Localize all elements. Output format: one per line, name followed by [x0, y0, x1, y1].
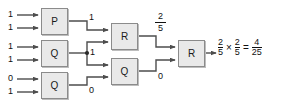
result-numerator: 4 [252, 38, 262, 47]
label-q1-out: 1 [90, 48, 95, 57]
gate-q-2[interactable]: Q [41, 72, 68, 99]
logic-diagram-canvas: P Q Q R Q R 1 1 1 1 0 1 1 1 0 0 2 5 2 5 … [0, 0, 291, 106]
gate-r-2[interactable]: R [178, 40, 205, 67]
label-p1-out: 1 [89, 13, 94, 22]
result-right-denominator: 5 [235, 48, 240, 57]
input-q2-b-label: 1 [8, 87, 13, 96]
input-q1-a-label: 1 [8, 42, 13, 51]
gate-q-3[interactable]: Q [111, 58, 138, 85]
result-left-numerator: 2 [218, 38, 223, 47]
result-right-fraction: 2 5 [235, 38, 240, 58]
gate-q-1[interactable]: Q [41, 40, 68, 67]
gate-q-3-label: Q [121, 67, 129, 77]
result-fraction: 4 25 [252, 38, 262, 58]
gate-r-1-label: R [121, 32, 128, 42]
label-q3-out: 0 [158, 72, 163, 81]
gate-q-2-label: Q [51, 81, 59, 91]
gate-r-2-label: R [188, 49, 195, 59]
result-left-denominator: 5 [218, 48, 223, 57]
label-q2-out: 0 [89, 86, 94, 95]
gate-p-1-label: P [51, 17, 58, 27]
label-r1-out-fraction: 2 5 [155, 12, 166, 34]
wire-p1-to-r1 [68, 21, 108, 30]
gate-q-1-label: Q [51, 49, 59, 59]
label-r1-out-denominator: 5 [155, 23, 166, 33]
input-q2-a-label: 0 [8, 74, 13, 83]
wire-q3-to-r2 [138, 60, 175, 71]
gate-p-1[interactable]: P [41, 8, 68, 35]
wire-r1-to-r2 [138, 36, 175, 47]
label-r1-out-numerator: 2 [155, 12, 166, 22]
input-p1-b-label: 1 [8, 23, 13, 32]
input-q1-b-label: 1 [8, 55, 13, 64]
gate-r-1[interactable]: R [111, 23, 138, 50]
multiply-icon: × [226, 42, 232, 53]
wire-q2-to-q3 [68, 77, 108, 85]
result-equation: 2 5 × 2 5 = 4 25 [218, 38, 262, 58]
equals-icon: = [243, 42, 249, 53]
input-p1-a-label: 1 [8, 10, 13, 19]
wire-junction-dot [85, 51, 89, 55]
result-denominator: 25 [252, 48, 262, 57]
result-left-fraction: 2 5 [218, 38, 223, 58]
result-right-numerator: 2 [235, 38, 240, 47]
